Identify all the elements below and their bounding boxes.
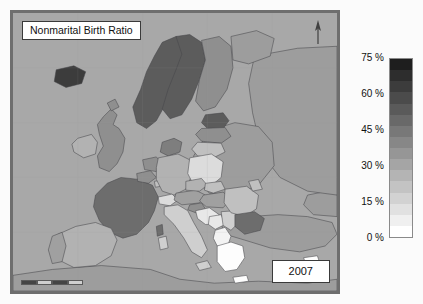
year-label: 2007 bbox=[289, 265, 313, 277]
legend-band bbox=[390, 226, 412, 237]
legend-band bbox=[390, 137, 412, 148]
legend-tick: 30 % bbox=[361, 161, 384, 171]
scale-segment bbox=[52, 280, 68, 285]
legend-band bbox=[390, 181, 412, 192]
map-year-box: 2007 bbox=[272, 260, 330, 283]
legend-tick: 75 % bbox=[361, 53, 384, 63]
legend: 75 %60 %45 %30 %15 %0 % bbox=[350, 52, 414, 244]
scale-bar-icon bbox=[21, 280, 83, 285]
legend-band bbox=[390, 193, 412, 204]
region-estonia bbox=[202, 113, 229, 129]
legend-band bbox=[390, 148, 412, 159]
legend-band bbox=[390, 126, 412, 137]
region-corsica bbox=[156, 224, 163, 236]
legend-band bbox=[390, 215, 412, 226]
scale-segment bbox=[21, 280, 37, 285]
legend-band bbox=[390, 92, 412, 103]
europe-choropleth-map[interactable]: .sea{fill:#a8a8a8;} .land0{fill:#fdfdfd;… bbox=[13, 13, 337, 291]
legend-colorbar bbox=[389, 58, 413, 238]
legend-tick: 0 % bbox=[367, 233, 384, 243]
legend-tick-labels: 75 %60 %45 %30 %15 %0 % bbox=[350, 52, 386, 244]
legend-band bbox=[390, 115, 412, 126]
map-figure: .sea{fill:#a8a8a8;} .land0{fill:#fdfdfd;… bbox=[0, 0, 423, 304]
legend-tick: 15 % bbox=[361, 197, 384, 207]
legend-tick: 60 % bbox=[361, 89, 384, 99]
legend-band bbox=[390, 104, 412, 115]
legend-band bbox=[390, 81, 412, 92]
scale-segment bbox=[68, 280, 84, 285]
legend-band bbox=[390, 204, 412, 215]
legend-band bbox=[390, 59, 412, 70]
legend-band bbox=[390, 170, 412, 181]
legend-tick: 45 % bbox=[361, 125, 384, 135]
page-title: Nonmarital Birth Ratio bbox=[30, 24, 133, 36]
region-sardinia bbox=[158, 236, 168, 250]
map-title-box: Nonmarital Birth Ratio bbox=[22, 21, 141, 40]
scale-segment bbox=[37, 280, 53, 285]
legend-band bbox=[390, 159, 412, 170]
legend-band bbox=[390, 70, 412, 81]
map-panel[interactable]: .sea{fill:#a8a8a8;} .land0{fill:#fdfdfd;… bbox=[10, 10, 340, 294]
north-arrow-icon bbox=[312, 19, 324, 45]
